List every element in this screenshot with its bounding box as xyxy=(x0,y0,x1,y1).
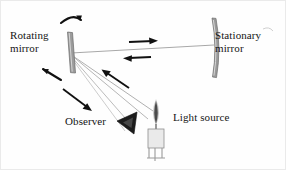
rotation-arrow-bottom xyxy=(42,68,61,80)
arrow-right-outbound xyxy=(129,38,158,45)
figure-container: Rotating mirror Stationary mirror Observ… xyxy=(0,0,286,170)
label-stationary-mirror: Stationary mirror xyxy=(215,29,261,54)
label-observer: Observer xyxy=(65,115,106,128)
rotating-mirror[interactable] xyxy=(68,32,76,73)
label-light-source: Light source xyxy=(173,111,230,124)
optics-diagram xyxy=(1,1,286,170)
candle-holder xyxy=(149,148,162,161)
label-rotating-mirror: Rotating mirror xyxy=(10,29,49,54)
arrow-left-return xyxy=(123,55,151,62)
rotation-arrow-top xyxy=(61,13,83,23)
observer-eye[interactable] xyxy=(117,112,137,134)
arrow-down-right-outgoing xyxy=(63,89,92,111)
ray-rotating-to-stationary xyxy=(71,45,214,53)
stray-mark xyxy=(263,28,273,31)
candle-body xyxy=(148,129,164,148)
